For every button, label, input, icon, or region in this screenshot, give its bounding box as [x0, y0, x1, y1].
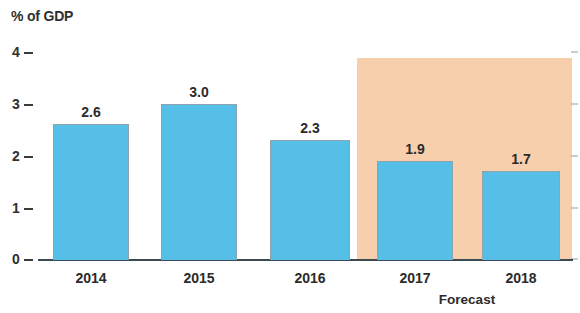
bar-value-label-2017: 1.9: [405, 141, 424, 157]
y-axis-tick-2: 2: [12, 148, 33, 164]
y-axis-tick-label-1: 1: [12, 200, 20, 216]
right-edge-tick-4: [571, 52, 578, 53]
y-axis-tick-dash-icon: [24, 52, 33, 54]
x-axis-category-label-2014: 2014: [75, 270, 106, 286]
y-axis-tick-label-0: 0: [12, 251, 20, 267]
x-axis-category-label-2016: 2016: [294, 270, 325, 286]
bar-2015: [161, 104, 237, 260]
bar-2014: [53, 124, 129, 260]
y-axis-tick-label-2: 2: [12, 148, 20, 164]
x-axis-category-label-2015: 2015: [183, 270, 214, 286]
x-axis-category-label-2017: 2017: [399, 270, 430, 286]
bar-chart: % of GDP 4 3 2 1 0 2.6 3.0 2.3 1.9 1.7 2…: [0, 0, 580, 313]
y-axis-tick-dash-icon: [24, 259, 33, 261]
y-axis-tick-1: 1: [12, 200, 33, 216]
y-axis-tick-3: 3: [12, 96, 33, 112]
bar-2016: [270, 140, 350, 260]
right-edge-tick-2: [571, 156, 578, 157]
bar-value-label-2015: 3.0: [189, 84, 208, 100]
bar-2018: [482, 171, 560, 260]
y-axis-tick-4: 4: [12, 44, 33, 60]
y-axis-tick-dash-icon: [24, 156, 33, 158]
bar-value-label-2018: 1.7: [511, 151, 530, 167]
bar-2017: [377, 161, 453, 260]
y-axis-tick-dash-icon: [24, 104, 33, 106]
x-axis-category-label-2018: 2018: [505, 270, 536, 286]
y-axis-tick-label-4: 4: [12, 44, 20, 60]
right-edge-tick-3: [571, 104, 578, 105]
plot-area: 4 3 2 1 0 2.6 3.0 2.3 1.9 1.7 2014 2015 …: [0, 0, 580, 313]
bar-value-label-2014: 2.6: [81, 104, 100, 120]
bar-value-label-2016: 2.3: [300, 120, 319, 136]
y-axis-tick-dash-icon: [24, 208, 33, 210]
forecast-annotation-label: Forecast: [439, 292, 495, 307]
y-axis-tick-label-3: 3: [12, 96, 20, 112]
right-edge-tick-1: [571, 208, 578, 209]
y-axis-tick-0: 0: [12, 251, 33, 267]
